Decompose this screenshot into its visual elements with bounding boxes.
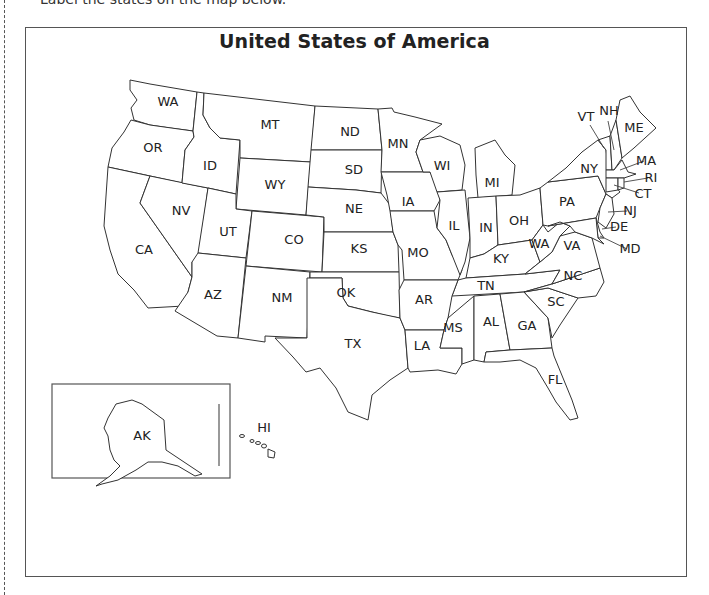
state-fl xyxy=(484,348,578,420)
state-label-la: LA xyxy=(414,338,431,353)
state-label-va: VA xyxy=(564,238,581,253)
state-label-ky: KY xyxy=(493,251,509,266)
state-label-sc: SC xyxy=(547,294,564,309)
us-map: WAORIDMTWYNDSDNEMNWIMIIAILINOHNVUTCOKSMO… xyxy=(0,0,709,595)
state-label-ms: MS xyxy=(443,320,462,335)
state-label-de: DE xyxy=(610,219,628,234)
state-label-ar: AR xyxy=(415,292,433,307)
state-label-ok: OK xyxy=(337,285,356,300)
state-label-md: MD xyxy=(619,241,640,256)
state-label-ne: NE xyxy=(345,201,363,216)
state-label-ut: UT xyxy=(219,224,237,239)
state-label-mi: MI xyxy=(484,175,499,190)
state-label-mt: MT xyxy=(260,117,279,132)
inset-alaska-hawaii xyxy=(52,384,275,486)
state-label-nh: NH xyxy=(599,103,619,118)
hawaii-islands xyxy=(240,435,276,459)
state-ct xyxy=(606,178,618,192)
state-label-ri: RI xyxy=(645,170,658,185)
state-label-mo: MO xyxy=(407,245,428,260)
state-ak xyxy=(96,400,202,486)
state-label-nm: NM xyxy=(272,290,293,305)
state-label-wi: WI xyxy=(434,158,451,173)
state-label-pa: PA xyxy=(559,194,575,209)
state-label-id: ID xyxy=(203,158,217,173)
state-label-ks: KS xyxy=(351,241,368,256)
state-label-ia: IA xyxy=(402,194,415,209)
state-label-az: AZ xyxy=(204,287,222,302)
state-label-mn: MN xyxy=(388,136,409,151)
state-label-nj: NJ xyxy=(623,203,637,218)
state-label-fl: FL xyxy=(548,372,563,387)
state-label-wa: WA xyxy=(528,236,549,251)
state-label-tx: TX xyxy=(344,336,362,351)
state-label-nc: NC xyxy=(564,268,583,283)
state-label-in: IN xyxy=(479,220,493,235)
state-label-ak: AK xyxy=(133,428,151,443)
state-label-vt: VT xyxy=(578,109,595,124)
state-label-wa: WA xyxy=(157,94,178,109)
state-label-ny: NY xyxy=(580,161,598,176)
state-label-hi: HI xyxy=(257,420,271,435)
state-label-il: IL xyxy=(448,218,460,233)
state-label-or: OR xyxy=(143,140,162,155)
state-label-oh: OH xyxy=(509,213,529,228)
state-label-tn: TN xyxy=(476,278,495,293)
state-label-al: AL xyxy=(483,314,500,329)
state-label-ga: GA xyxy=(518,318,537,333)
state-label-nd: ND xyxy=(340,124,360,139)
state-label-nv: NV xyxy=(172,203,191,218)
state-label-ma: MA xyxy=(636,153,656,168)
state-label-wy: WY xyxy=(265,177,286,192)
state-label-ca: CA xyxy=(135,242,153,257)
state-label-sd: SD xyxy=(345,162,363,177)
state-label-me: ME xyxy=(624,120,643,135)
state-label-co: CO xyxy=(284,232,303,247)
state-label-ct: CT xyxy=(634,186,651,201)
